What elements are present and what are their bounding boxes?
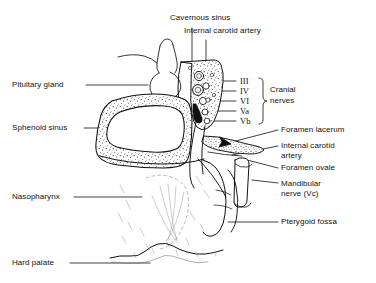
nasopharynx-region	[118, 175, 209, 250]
label-internal-carotid-artery-top: Internal carotid artery	[184, 26, 261, 36]
label-cranial-nerve-iv: IV	[240, 86, 249, 96]
label-cavernous-sinus: Cavernous sinus	[170, 13, 230, 23]
label-nasopharynx: Nasopharynx	[12, 192, 60, 202]
label-pterygoid-fossa: Pterygoid fossa	[281, 217, 337, 227]
hard-palate-shape	[110, 243, 223, 263]
label-cranial-nerves-line1: Cranial	[270, 85, 296, 95]
label-internal-carotid-artery-right-line2: artery	[281, 151, 302, 161]
label-cranial-nerves-line2: nerves	[270, 96, 294, 106]
sphenoid-sinus-lumen	[107, 106, 184, 153]
label-internal-carotid-artery-right-line1: Internal carotid	[281, 141, 335, 151]
nerve-section-VI	[199, 97, 206, 104]
pterygoid-process-shape	[203, 160, 238, 236]
mandibular-nerve-tube	[234, 158, 252, 207]
label-cranial-nerve-vb: Vb	[240, 116, 250, 126]
label-cranial-nerve-vi: VI	[240, 96, 249, 106]
nerve-section-IV	[203, 83, 209, 89]
label-cranial-nerve-iii: III	[240, 76, 249, 86]
label-cranial-nerve-va: Va	[240, 106, 249, 116]
label-pituitary-gland: Pituitary gland	[12, 80, 63, 90]
label-foramen-lacerum: Foramen lacerum	[281, 125, 344, 135]
label-sphenoid-sinus: Sphenoid sinus	[12, 123, 67, 133]
label-foramen-ovale: Foramen ovale	[281, 163, 335, 173]
label-mandibular-nerve-line1: Mandibular	[281, 179, 321, 189]
pituitary-gland-shape	[118, 39, 181, 100]
anatomical-diagram: Pituitary gland Sphenoid sinus Nasophary…	[0, 0, 376, 283]
label-hard-palate: Hard palate	[12, 258, 54, 268]
sphenoid-sinus-shape	[96, 94, 204, 168]
nerve-section-Va	[202, 109, 208, 115]
cranial-nerves-brace	[259, 78, 267, 124]
label-mandibular-nerve-line2: nerve (Vc)	[281, 189, 318, 199]
clivus-foramina-region	[202, 136, 264, 156]
nerve-section-Vb	[204, 118, 210, 124]
leader-mandibular-nerve	[252, 180, 278, 183]
internal-carotid-artery-course	[190, 122, 226, 197]
